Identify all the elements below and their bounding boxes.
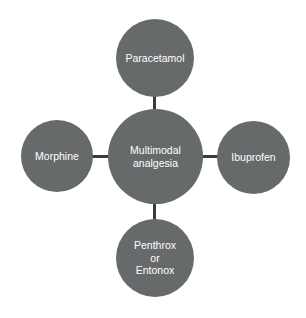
node-ibuprofen: Ibuprofen — [217, 121, 290, 194]
node-morphine-label: Morphine — [35, 150, 79, 163]
multimodal-analgesia-diagram: Paracetamol Morphine Multimodal analgesi… — [0, 0, 306, 318]
node-hub-label-line-2: analgesia — [133, 157, 178, 170]
node-morphine: Morphine — [21, 120, 93, 192]
node-penthrox-label-line-1: Penthrox — [134, 239, 176, 252]
node-multimodal-analgesia: Multimodal analgesia — [108, 109, 203, 204]
node-penthrox-or-entonox: Penthrox or Entonox — [116, 219, 194, 297]
node-penthrox-label-line-3: Entonox — [136, 264, 175, 277]
node-paracetamol-label: Paracetamol — [126, 52, 185, 65]
node-hub-label-line-1: Multimodal — [130, 144, 181, 157]
node-penthrox-label-line-2: or — [150, 252, 159, 265]
node-paracetamol: Paracetamol — [116, 19, 194, 97]
node-ibuprofen-label: Ibuprofen — [231, 151, 275, 164]
